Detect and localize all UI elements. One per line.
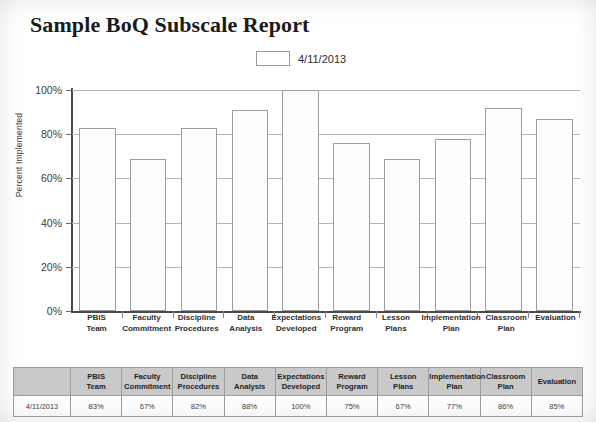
header-line: PBIS <box>71 372 121 382</box>
bar-cell <box>275 90 326 311</box>
plot-area <box>72 90 580 311</box>
bar <box>384 159 421 311</box>
x-axis-label-line: Lesson <box>372 313 419 324</box>
header-line: Data <box>225 372 275 382</box>
table-cell-value: 85% <box>531 396 582 417</box>
x-axis-label-line: Discipline <box>173 313 220 324</box>
bar-cell <box>224 90 275 311</box>
header-line: Plan <box>481 382 531 392</box>
bar-cell <box>529 90 580 311</box>
x-axis-label: Evaluation <box>531 313 580 334</box>
x-axis-label: ImplementationPlan <box>421 313 482 334</box>
y-axis-tick-label: 60% <box>20 172 62 184</box>
bar-cell <box>428 90 479 311</box>
x-axis-label-line: Procedures <box>173 324 220 335</box>
header-line: Analysis <box>225 382 275 392</box>
table-cell-value: 86% <box>480 396 531 417</box>
header-line: Plan <box>429 382 479 392</box>
header-line: Expectations <box>276 372 326 382</box>
table-column-header: ExpectationsDeveloped <box>275 368 326 396</box>
header-line: Commitment <box>122 382 172 392</box>
table-cell-value: 100% <box>275 396 326 417</box>
x-axis-label-line: Program <box>323 324 370 335</box>
x-axis-label: ExpectationsDeveloped <box>270 313 322 334</box>
y-axis-tick-label: 80% <box>20 128 62 140</box>
x-axis-label: FacultyCommitment <box>121 313 172 334</box>
bar <box>282 90 319 311</box>
table-column-header: DataAnalysis <box>224 368 275 396</box>
bar <box>333 143 370 311</box>
table-cell-value: 67% <box>122 396 173 417</box>
bar <box>485 108 522 311</box>
header-line: Discipline <box>173 372 223 382</box>
x-axis-label-line: Analysis <box>222 324 269 335</box>
x-axis-label-line: Developed <box>271 324 321 335</box>
x-axis-label-line: Classroom <box>483 313 530 324</box>
y-axis-tick-label: 20% <box>20 261 62 273</box>
table-column-header: ClassroomPlan <box>480 368 531 396</box>
header-line: Lesson <box>378 372 428 382</box>
table-cell-value: 88% <box>224 396 275 417</box>
bar-cell <box>326 90 377 311</box>
table-cell-value: 83% <box>71 396 122 417</box>
x-axis-label-line: Plan <box>483 324 530 335</box>
x-axis-label: LessonPlans <box>371 313 420 334</box>
report-page: Sample BoQ Subscale Report 4/11/2013 Per… <box>0 0 596 422</box>
header-line: Plans <box>378 382 428 392</box>
table-column-header: FacultyCommitment <box>122 368 173 396</box>
bar-cell <box>478 90 529 311</box>
bar-cell <box>72 90 123 311</box>
bar-cell <box>377 90 428 311</box>
x-axis-label: DataAnalysis <box>221 313 270 334</box>
bar-series <box>72 90 580 311</box>
header-line: Classroom <box>481 372 531 382</box>
y-axis-title: Percent Implemented <box>14 100 24 210</box>
x-axis-labels: PBISTeamFacultyCommitmentDisciplineProce… <box>72 313 580 334</box>
header-line: Developed <box>276 382 326 392</box>
x-axis-label-line: Faculty <box>122 313 171 324</box>
table-header-row: PBISTeamFacultyCommitmentDisciplineProce… <box>14 368 583 396</box>
x-axis-label-line: Plan <box>422 324 481 335</box>
header-line: Program <box>327 382 377 392</box>
x-axis-label: RewardProgram <box>322 313 371 334</box>
x-axis-label-line: PBIS <box>73 313 120 324</box>
x-axis-label-line: Commitment <box>122 324 171 335</box>
bar-cell <box>174 90 225 311</box>
y-axis-tick-label: 100% <box>20 84 62 96</box>
bar-cell <box>123 90 174 311</box>
x-axis-label: DisciplineProcedures <box>172 313 221 334</box>
x-axis-label-line: Team <box>73 324 120 335</box>
table-column-header: Evaluation <box>531 368 582 396</box>
x-axis-label-line: Evaluation <box>532 313 579 324</box>
x-axis-label-line: Expectations <box>271 313 321 324</box>
y-axis-tick-label: 0% <box>20 305 62 317</box>
bar <box>181 128 218 311</box>
table-cell-value: 75% <box>326 396 377 417</box>
bar <box>536 119 573 311</box>
header-line: Procedures <box>173 382 223 392</box>
table-header: PBISTeamFacultyCommitmentDisciplineProce… <box>14 368 583 396</box>
bar <box>232 110 269 311</box>
x-axis-label-line: Plans <box>372 324 419 335</box>
header-line: Faculty <box>122 372 172 382</box>
header-line: Implementation <box>429 372 479 382</box>
table-column-header: PBISTeam <box>71 368 122 396</box>
bar <box>130 159 167 311</box>
table-row-label: 4/11/2013 <box>14 396 71 417</box>
x-axis-label-line: Reward <box>323 313 370 324</box>
x-axis-label-line: Data <box>222 313 269 324</box>
table-cell-value: 67% <box>378 396 429 417</box>
x-axis-label-line: Implementation <box>422 313 481 324</box>
table-column-header: DisciplineProcedures <box>173 368 224 396</box>
x-axis-label: ClassroomPlan <box>482 313 531 334</box>
y-axis-tick-label: 40% <box>20 217 62 229</box>
x-axis-label: PBISTeam <box>72 313 121 334</box>
table-cell-value: 82% <box>173 396 224 417</box>
table-column-header: LessonPlans <box>378 368 429 396</box>
bar-chart: Percent Implemented 100%80%60%40%20%0% P… <box>0 0 596 340</box>
header-line: Team <box>71 382 121 392</box>
table-corner-cell <box>14 368 71 396</box>
table-row: 4/11/201383%67%82%88%100%75%67%77%86%85% <box>14 396 583 417</box>
bar <box>79 128 116 311</box>
header-line: Reward <box>327 372 377 382</box>
